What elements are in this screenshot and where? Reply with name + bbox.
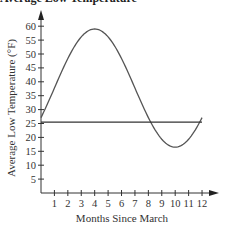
x-axis-title: Months Since March <box>76 212 169 224</box>
temperature-curve <box>41 29 202 147</box>
y-tick-label: 20 <box>26 132 37 143</box>
y-tick-label: 15 <box>26 146 37 157</box>
y-tick-label: 50 <box>26 49 37 60</box>
chart: 51015202530354045505560123456789101112 M… <box>0 0 225 228</box>
x-tick-label: 4 <box>92 198 98 209</box>
x-tick-label: 5 <box>105 198 110 209</box>
y-tick-label: 10 <box>26 160 37 171</box>
y-axis-arrow <box>38 10 44 20</box>
y-tick-label: 40 <box>26 76 37 87</box>
y-tick-label: 45 <box>26 62 37 73</box>
x-tick-label: 1 <box>52 198 57 209</box>
x-tick-label: 12 <box>197 198 208 209</box>
y-tick-label: 5 <box>31 174 36 185</box>
plot-area <box>41 29 202 147</box>
axes <box>38 10 219 196</box>
x-tick-label: 3 <box>79 198 84 209</box>
x-tick-label: 2 <box>65 198 70 209</box>
x-tick-label: 6 <box>119 198 124 209</box>
y-tick-label: 60 <box>26 21 37 32</box>
x-tick-label: 9 <box>159 198 164 209</box>
x-tick-label: 7 <box>132 198 137 209</box>
y-tick-label: 55 <box>26 35 37 46</box>
x-axis-arrow <box>209 190 219 196</box>
y-tick-label: 25 <box>26 118 37 129</box>
x-tick-label: 10 <box>170 198 181 209</box>
x-tick-label: 11 <box>184 198 194 209</box>
y-tick-label: 30 <box>26 104 37 115</box>
y-axis-title: Average Low Temperature (°F) <box>5 39 18 177</box>
x-tick-label: 8 <box>146 198 151 209</box>
y-tick-label: 35 <box>26 90 37 101</box>
